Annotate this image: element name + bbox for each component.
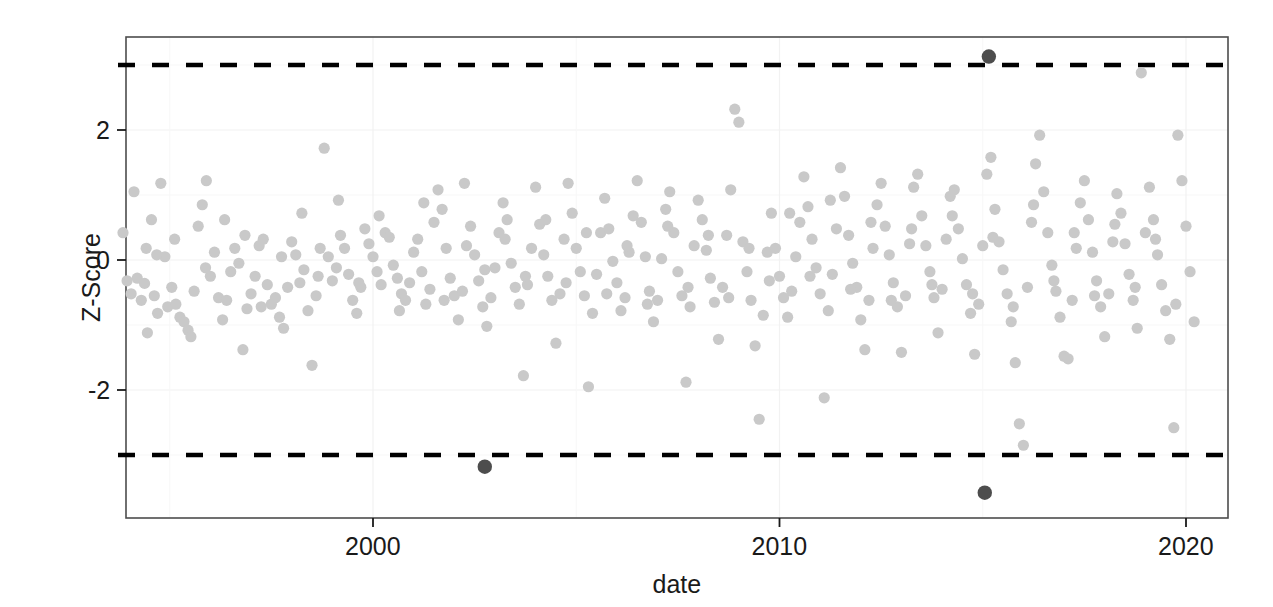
data-point: [786, 286, 797, 297]
data-point: [953, 223, 964, 234]
data-point: [1008, 301, 1019, 312]
data-point: [839, 191, 850, 202]
data-point: [1018, 440, 1029, 451]
data-point: [798, 171, 809, 182]
data-point: [473, 275, 484, 286]
data-point: [947, 210, 958, 221]
data-point: [1099, 331, 1110, 342]
data-point: [376, 279, 387, 290]
data-point: [149, 290, 160, 301]
data-point: [967, 288, 978, 299]
data-point: [1184, 266, 1195, 277]
data-point: [579, 290, 590, 301]
data-point: [571, 243, 582, 254]
data-point: [1026, 217, 1037, 228]
data-point: [957, 253, 968, 264]
data-point: [139, 278, 150, 289]
data-point: [1103, 288, 1114, 299]
data-point: [754, 414, 765, 425]
data-point: [298, 264, 309, 275]
data-point: [1034, 130, 1045, 141]
data-point: [867, 243, 878, 254]
data-point: [489, 262, 500, 273]
data-point: [583, 381, 594, 392]
data-point: [1079, 175, 1090, 186]
gridlines: [126, 37, 1228, 518]
data-point: [146, 214, 157, 225]
data-point: [201, 175, 212, 186]
data-point: [1109, 219, 1120, 230]
data-point: [550, 338, 561, 349]
data-point: [1091, 275, 1102, 286]
data-point: [1002, 288, 1013, 299]
data-point: [241, 303, 252, 314]
data-point: [313, 271, 324, 282]
data-point: [774, 271, 785, 282]
x-axis-title: date: [653, 570, 702, 599]
data-point: [481, 321, 492, 332]
data-point: [717, 282, 728, 293]
data-point: [662, 221, 673, 232]
data-point: [217, 314, 228, 325]
data-point: [1006, 316, 1017, 327]
axis-ticks: [117, 130, 1186, 527]
data-point: [908, 182, 919, 193]
data-point: [351, 308, 362, 319]
data-point: [219, 214, 230, 225]
data-point: [916, 210, 927, 221]
data-point: [932, 327, 943, 338]
data-point: [233, 258, 244, 269]
data-point: [1156, 279, 1167, 290]
data-point: [1046, 260, 1057, 271]
data-point: [750, 340, 761, 351]
data-point: [831, 223, 842, 234]
data-point: [461, 240, 472, 251]
chart-figure: Z-Score date 20002010202020-2: [0, 0, 1273, 607]
data-point: [689, 240, 700, 251]
data-point: [1144, 182, 1155, 193]
data-point: [428, 217, 439, 228]
data-point: [526, 243, 537, 254]
data-point: [170, 299, 181, 310]
data-point: [418, 197, 429, 208]
data-point: [315, 243, 326, 254]
data-point: [117, 227, 128, 238]
data-point: [758, 310, 769, 321]
data-point: [1107, 236, 1118, 247]
data-point: [615, 305, 626, 316]
data-point: [554, 288, 565, 299]
data-point: [327, 275, 338, 286]
data-point: [1152, 249, 1163, 260]
data-point: [400, 295, 411, 306]
data-point: [209, 247, 220, 258]
data-point: [815, 288, 826, 299]
data-point: [1189, 316, 1200, 327]
data-point: [193, 221, 204, 232]
data-point: [485, 292, 496, 303]
data-point: [884, 249, 895, 260]
data-point: [282, 282, 293, 293]
data-point: [701, 245, 712, 256]
data-point: [804, 271, 815, 282]
data-point: [514, 299, 525, 310]
data-point: [601, 288, 612, 299]
data-point: [294, 277, 305, 288]
data-point: [928, 292, 939, 303]
data-point: [542, 271, 553, 282]
data-point: [989, 204, 1000, 215]
y-tick-label: 2: [96, 116, 110, 145]
data-point: [987, 232, 998, 243]
data-point: [863, 295, 874, 306]
data-point: [306, 360, 317, 371]
data-point: [445, 273, 456, 284]
data-point: [924, 266, 935, 277]
data-point: [1071, 243, 1082, 254]
data-point: [1069, 227, 1080, 238]
data-point: [477, 301, 488, 312]
data-point: [1067, 295, 1078, 306]
data-point: [197, 199, 208, 210]
data-point: [353, 277, 364, 288]
data-point: [937, 284, 948, 295]
y-tick-label: 0: [96, 246, 110, 275]
data-point: [900, 290, 911, 301]
